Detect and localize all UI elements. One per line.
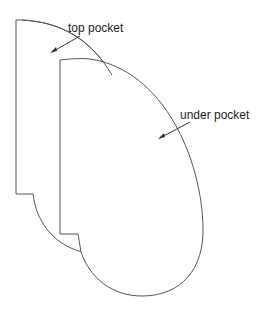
- under-pocket-label: under pocket: [180, 109, 249, 121]
- under-pocket-outline: [60, 59, 203, 296]
- top-pocket-label: top pocket: [68, 22, 123, 34]
- pocket-diagram: top pocket under pocket: [0, 0, 259, 318]
- pocket-shapes: [0, 0, 259, 318]
